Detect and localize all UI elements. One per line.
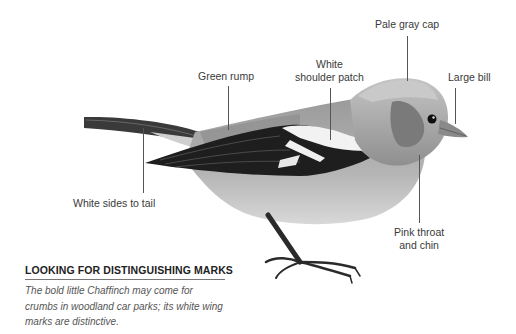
leader-green-rump [228, 86, 229, 130]
label-green-rump: Green rump [198, 70, 254, 83]
label-pink-throat-chin: Pink throat and chin [394, 226, 444, 252]
label-pink-throat-line1: Pink throat [394, 226, 444, 239]
eye [428, 115, 437, 124]
legs [266, 215, 360, 283]
label-pink-throat-line2: and chin [394, 239, 444, 252]
caption-heading: LOOKING FOR DISTINGUISHING MARKS [25, 264, 225, 280]
label-white-shoulder-patch-line1: White [295, 58, 364, 71]
leader-white-shoulder-patch [330, 88, 331, 140]
leader-pink-throat-chin [419, 155, 420, 223]
caption-box: LOOKING FOR DISTINGUISHING MARKS The bol… [25, 264, 225, 330]
label-pale-gray-cap: Pale gray cap [375, 18, 439, 31]
label-white-shoulder-patch-line2: shoulder patch [295, 71, 364, 84]
label-white-sides-to-tail: White sides to tail [73, 197, 155, 210]
caption-body: The bold little Chaffinch may come for c… [25, 283, 225, 330]
leader-pale-gray-cap [407, 36, 408, 81]
leader-white-sides-to-tail [143, 128, 144, 193]
label-large-bill: Large bill [448, 71, 491, 84]
leader-large-bill [455, 88, 456, 124]
label-white-shoulder-patch: White shoulder patch [295, 58, 364, 84]
